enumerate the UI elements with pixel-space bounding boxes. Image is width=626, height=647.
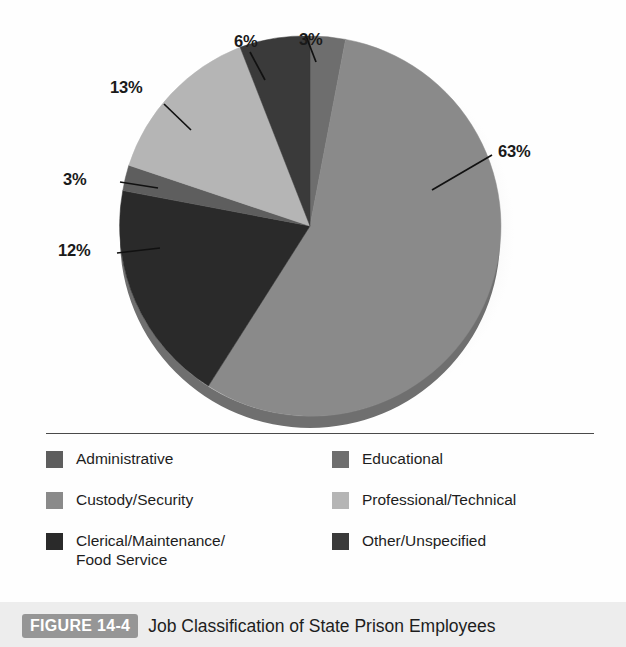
legend-label-professional-technical: Professional/Technical: [362, 490, 516, 509]
legend-item-custody-security[interactable]: Custody/Security: [46, 490, 332, 509]
pie-label-administrative: 3%: [63, 170, 86, 189]
legend-swatch-icon-professional-technical: [332, 492, 349, 509]
figure-caption: FIGURE 14-4 Job Classification of State …: [22, 614, 495, 638]
legend-label-other-unspecified: Other/Unspecified: [362, 531, 486, 550]
legend-item-other-unspecified[interactable]: Other/Unspecified: [332, 531, 598, 569]
legend-item-professional-technical[interactable]: Professional/Technical: [332, 490, 598, 509]
legend-label-custody-security: Custody/Security: [76, 490, 193, 509]
pie-chart-svg: [0, 0, 626, 428]
legend-item-administrative[interactable]: Administrative: [46, 449, 332, 468]
legend-label-clerical: Clerical/Maintenance/ Food Service: [76, 531, 225, 569]
legend-label-administrative: Administrative: [76, 449, 173, 468]
pie-label-professional-technical: 13%: [110, 78, 142, 97]
legend-swatch-icon-other-unspecified: [332, 533, 349, 550]
pie-label-clerical: 12%: [58, 241, 90, 260]
legend-item-clerical[interactable]: Clerical/Maintenance/ Food Service: [46, 531, 332, 569]
pie-label-custody-security: 63%: [498, 142, 530, 161]
pie-label-educational: 3%: [299, 30, 322, 49]
legend-divider: [46, 433, 594, 434]
legend-label-educational: Educational: [362, 449, 443, 468]
figure-caption-text: Job Classification of State Prison Emplo…: [148, 616, 495, 636]
figure-number-badge: FIGURE 14-4: [22, 614, 138, 638]
legend-swatch-icon-educational: [332, 451, 349, 468]
pie-label-other-unspecified: 6%: [234, 32, 257, 51]
figure-container: 3% 6% 13% 3% 12% 63% Administrative Educ…: [0, 0, 626, 647]
legend-swatch-icon-administrative: [46, 451, 63, 468]
pie-chart: 3% 6% 13% 3% 12% 63%: [0, 0, 626, 428]
legend-item-educational[interactable]: Educational: [332, 449, 598, 468]
legend-swatch-icon-clerical: [46, 533, 63, 550]
legend: Administrative Educational Custody/Secur…: [46, 449, 598, 569]
legend-swatch-icon-custody-security: [46, 492, 63, 509]
